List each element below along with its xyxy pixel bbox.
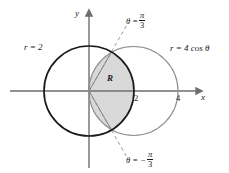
label-ray-theta-negative-prefix: θ = − [126,155,146,165]
fraction-denominator: 3 [139,21,145,30]
label-ray-theta-positive-prefix: θ = [126,16,138,26]
axis-label-y: y [75,9,79,18]
label-circle-outer: r = 4 cos θ [170,44,210,53]
label-ray-theta-negative: θ = −π3 [126,150,154,169]
x-tick-label-4: 4 [176,94,180,103]
polar-region-figure: r = 2 r = 4 cos θ θ =π3 θ = −π3 R 2 4 x … [0,0,229,173]
label-ray-theta-positive: θ =π3 [126,11,146,30]
label-region-R: R [107,74,113,83]
fraction-pi-over-3-positive: π3 [139,11,145,30]
label-circle-inner: r = 2 [24,43,43,52]
axis-label-x: x [201,93,205,102]
figure-canvas [0,0,229,173]
fraction-denominator: 3 [147,160,153,169]
fraction-pi-over-3-negative: π3 [147,150,153,169]
x-tick-label-2: 2 [134,94,138,103]
